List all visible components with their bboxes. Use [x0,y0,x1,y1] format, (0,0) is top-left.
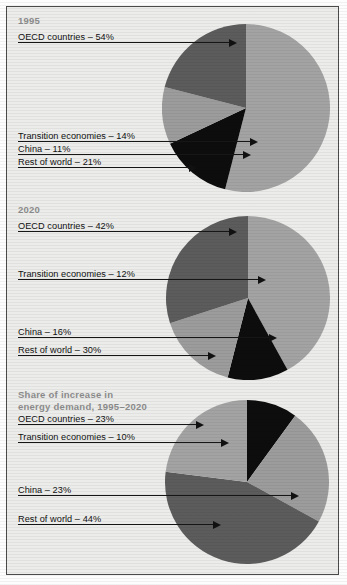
pie-label-share-rest: Rest of world – 44% [18,514,101,524]
slice-oecd-countries-share [166,400,247,482]
arrowhead-share-rest [213,521,221,529]
pie-panel-share-of-increase: Share of increase in energy demand, 1995… [7,7,338,574]
chart-title-share-of-increase: Share of increase in energy demand, 1995… [18,389,147,412]
pie-label-share-transition: Transition economies – 10% [18,432,135,442]
chart-plate: 1995 OECD countries – 54% Transition eco… [6,6,339,575]
leader-share-transition [18,442,226,443]
leader-share-china [18,495,296,496]
leader-share-oecd [18,424,201,425]
leader-share-rest [18,524,218,525]
pie-label-share-china: China – 23% [18,485,71,495]
pie-label-share-oecd: OECD countries – 23% [18,414,114,424]
arrowhead-share-transition [221,439,229,447]
arrowhead-share-oecd [196,421,204,429]
figure-plate: 1995 OECD countries – 54% Transition eco… [0,0,347,585]
arrowhead-share-china [291,492,299,500]
